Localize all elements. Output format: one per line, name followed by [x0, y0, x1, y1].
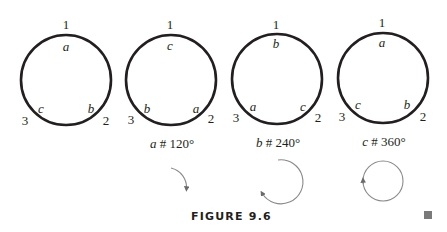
inner-label-bottom-right: c — [300, 100, 306, 113]
vertex-label-3: 3 — [233, 111, 240, 124]
inner-label-bottom-left: c — [38, 102, 44, 115]
rotation-arrow-240-icon — [262, 160, 303, 204]
rotation-arrow-360-icon — [363, 161, 403, 201]
rotation-arrow-120-icon — [171, 168, 187, 189]
vertex-label-1: 1 — [167, 18, 174, 31]
vertex-label-2: 2 — [208, 112, 215, 125]
inner-label-bottom-right: b — [88, 102, 95, 115]
inner-label-bottom-left: b — [144, 102, 151, 115]
vertex-label-1: 1 — [63, 18, 70, 31]
vertex-label-2: 2 — [103, 114, 110, 127]
rotation-caption: a # 120° — [150, 137, 194, 150]
inner-label-top: c — [167, 39, 173, 52]
inner-label-bottom-right: b — [404, 98, 411, 111]
vertex-label-2: 2 — [420, 110, 427, 123]
rotation-caption: b # 240° — [256, 136, 300, 149]
vertex-label-2: 2 — [315, 111, 322, 124]
vertex-label-3: 3 — [22, 114, 29, 127]
vertex-label-3: 3 — [339, 110, 346, 123]
vertex-label-1: 1 — [379, 16, 386, 29]
rotation-caption: c # 360° — [362, 135, 405, 148]
vertex-label-3: 3 — [128, 113, 135, 126]
inner-label-bottom-left: c — [355, 98, 361, 111]
inner-label-bottom-right: a — [193, 102, 200, 115]
end-of-section-mark — [424, 211, 432, 219]
inner-label-top: a — [379, 36, 386, 49]
vertex-label-1: 1 — [273, 18, 280, 31]
inner-label-top: b — [273, 37, 280, 50]
inner-label-top: a — [63, 40, 70, 53]
inner-label-bottom-left: a — [250, 100, 257, 113]
figure-title: FIGURE 9.6 — [191, 210, 272, 223]
